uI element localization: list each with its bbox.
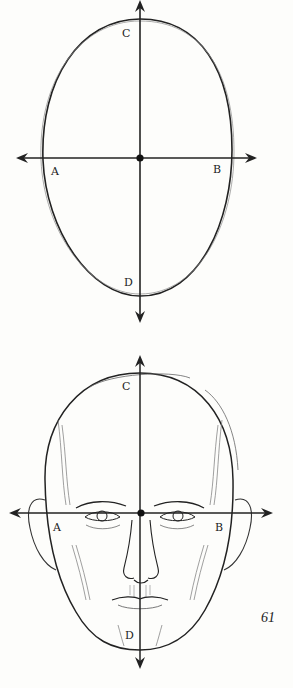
- book-page: C A B D: [0, 0, 293, 688]
- label-d: D: [125, 629, 134, 642]
- head-diagram: C A B D: [0, 0, 293, 688]
- label-c: C: [122, 380, 130, 393]
- label-b: B: [215, 521, 223, 534]
- center-point: [137, 509, 144, 516]
- page-number: 61: [261, 610, 275, 626]
- nose: [124, 520, 159, 597]
- label-a: A: [52, 521, 62, 534]
